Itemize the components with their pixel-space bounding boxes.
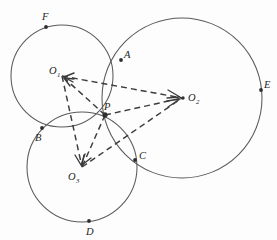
point-a-dot bbox=[119, 58, 123, 62]
label-point-d: D bbox=[85, 226, 94, 237]
label-point-f: F bbox=[41, 11, 49, 22]
point-c-dot bbox=[133, 158, 137, 162]
arrowhead-into-o2-b bbox=[167, 99, 180, 107]
label-center-o3: O 3 bbox=[68, 171, 80, 184]
label-center-o2: O 2 bbox=[188, 92, 200, 105]
geometry-figure: A B C D E F P O 1 O 2 O 3 bbox=[0, 0, 277, 240]
label-center-o3-subscript: 3 bbox=[75, 177, 80, 184]
label-center-o3-letter: O bbox=[68, 171, 76, 182]
label-center-o2-subscript: 2 bbox=[196, 98, 200, 105]
label-point-a: A bbox=[123, 49, 131, 60]
label-point-e: E bbox=[263, 79, 271, 90]
connector-o1-to-o2 bbox=[62, 76, 182, 98]
circles-group bbox=[11, 18, 262, 222]
label-center-o2-letter: O bbox=[188, 92, 196, 103]
point-f-dot bbox=[44, 25, 48, 29]
point-o2-center-dot bbox=[181, 96, 184, 99]
point-p-dot bbox=[103, 113, 108, 118]
label-center-o1-subscript: 1 bbox=[57, 71, 60, 78]
label-center-o1: O 1 bbox=[49, 65, 60, 78]
diagram-canvas: A B C D E F P O 1 O 2 O 3 bbox=[0, 0, 277, 240]
label-center-o1-letter: O bbox=[49, 65, 57, 76]
point-b-dot bbox=[40, 126, 44, 130]
connector-p-to-o1 bbox=[62, 76, 105, 115]
label-point-p: P bbox=[103, 101, 111, 112]
label-point-c: C bbox=[139, 150, 147, 161]
point-e-dot bbox=[259, 88, 263, 92]
labels-group: A B C D E F P O 1 O 2 O 3 bbox=[35, 11, 271, 237]
points-group bbox=[40, 25, 263, 223]
point-d-dot bbox=[87, 219, 91, 223]
label-point-b: B bbox=[35, 132, 42, 143]
connector-o1-to-o3 bbox=[62, 76, 82, 167]
connectors-group bbox=[62, 76, 182, 167]
